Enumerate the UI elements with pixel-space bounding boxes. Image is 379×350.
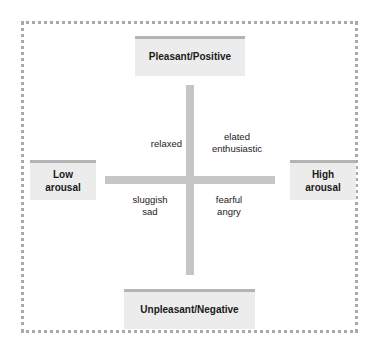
affect-circumplex-diagram: Pleasant/Positive Unpleasant/Negative Lo… xyxy=(0,0,379,350)
quadrant-label-high-arousal-unpleasant: fearful angry xyxy=(198,194,260,219)
arousal-axis-horizontal-bar xyxy=(105,176,275,184)
pole-label-unpleasant-negative: Unpleasant/Negative xyxy=(124,289,255,329)
pole-label-pleasant-positive: Pleasant/Positive xyxy=(135,36,245,76)
quadrant-label-low-arousal-unpleasant: sluggish sad xyxy=(118,194,182,219)
pole-label-low-arousal: Low arousal xyxy=(30,160,96,200)
quadrant-label-high-arousal-pleasant: elated enthusiastic xyxy=(198,131,276,156)
quadrant-label-low-arousal-pleasant: relaxed xyxy=(118,138,182,150)
pole-label-high-arousal: High arousal xyxy=(290,160,356,200)
